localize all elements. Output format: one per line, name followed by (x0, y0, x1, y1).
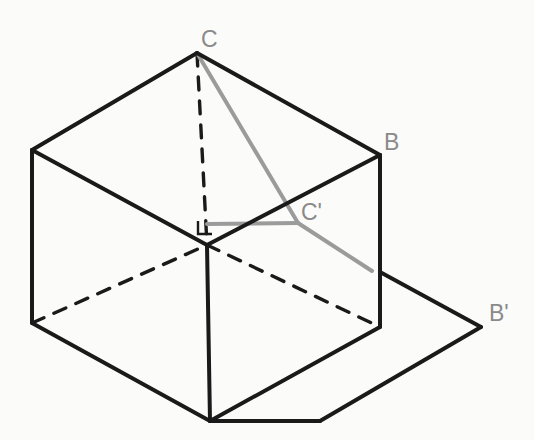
cube-projection-svg (0, 0, 534, 440)
vertex-label-b-prime: B' (489, 302, 509, 325)
geometry-figure: C B C' B' (0, 0, 534, 440)
vertex-label-c: C (201, 28, 218, 51)
vertex-label-b: B (384, 131, 399, 154)
figure-background (0, 0, 534, 440)
vertex-label-c-prime: C' (301, 201, 322, 224)
